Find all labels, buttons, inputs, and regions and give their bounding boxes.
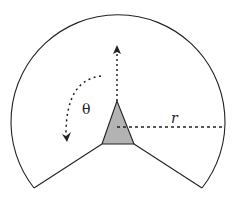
center-triangle: [102, 101, 134, 144]
radius-label: r: [171, 110, 178, 126]
theta-arrow-icon: [62, 132, 71, 142]
theta-label: θ: [82, 101, 90, 117]
outer-arc: [11, 15, 225, 188]
sector-diagram: [0, 0, 237, 203]
right-edge: [134, 144, 202, 188]
left-edge: [34, 144, 102, 188]
up-arrow-icon: [113, 45, 121, 54]
